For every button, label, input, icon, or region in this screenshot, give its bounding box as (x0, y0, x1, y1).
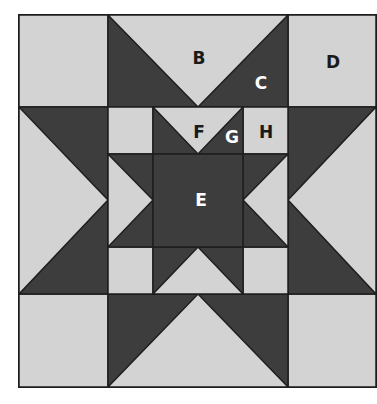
corner-square-top-left (19, 15, 108, 107)
inner-flying-geese-bottom (153, 247, 243, 294)
inner-corner-top-left (108, 107, 153, 154)
inner-flying-geese-right (243, 154, 288, 247)
label-g: G (225, 127, 239, 147)
label-h: H (259, 122, 273, 142)
label-d: D (326, 52, 340, 72)
inner-flying-geese-left (108, 154, 153, 247)
label-f: F (193, 122, 205, 142)
quilt-block-diagram: B C D E F G H (0, 0, 377, 404)
flying-geese-left (19, 107, 108, 294)
flying-geese-right (288, 107, 376, 294)
label-e: E (195, 190, 207, 210)
inner-corner-bottom-left (108, 247, 153, 294)
corner-square-bottom-left (19, 294, 108, 387)
label-c: C (255, 73, 267, 93)
label-b: B (193, 48, 206, 68)
inner-corner-bottom-right (243, 247, 288, 294)
corner-square-bottom-right (288, 294, 376, 387)
flying-geese-bottom (108, 294, 288, 387)
